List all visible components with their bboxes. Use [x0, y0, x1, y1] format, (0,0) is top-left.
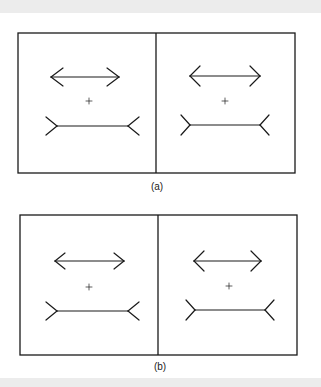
stroke	[251, 251, 261, 261]
right-half	[186, 251, 274, 320]
outward-fins-line	[186, 300, 274, 320]
stroke	[114, 253, 124, 261]
stroke	[128, 117, 139, 126]
stroke	[260, 125, 269, 135]
stroke	[181, 115, 190, 125]
stroke	[190, 76, 200, 86]
stroke	[46, 126, 57, 135]
fixation-cross-icon	[86, 98, 92, 104]
stroke	[181, 125, 190, 135]
stroke	[46, 311, 57, 320]
stroke	[55, 253, 65, 261]
panel-a-caption: (a)	[137, 181, 177, 193]
outward-fins-line	[46, 117, 139, 135]
panel-b	[20, 215, 297, 355]
panel-b-caption: (b)	[140, 361, 180, 373]
stroke	[51, 68, 63, 77]
fixation-cross-icon	[222, 98, 228, 104]
stroke	[265, 310, 274, 320]
muller-lyer-figure	[0, 0, 321, 387]
stroke	[250, 76, 260, 86]
fixation-cross-icon	[226, 283, 232, 289]
stroke	[128, 302, 139, 311]
stroke	[194, 251, 204, 261]
stroke	[128, 311, 139, 320]
inward-arrowheads-line	[55, 253, 124, 269]
stroke	[128, 126, 139, 135]
left-half	[46, 253, 139, 320]
inward-arrowheads-line	[51, 68, 119, 86]
stroke	[107, 77, 119, 86]
left-half	[46, 68, 139, 135]
stroke	[186, 300, 195, 310]
fixation-cross-icon	[86, 284, 92, 290]
panel-a	[18, 33, 295, 173]
inward-arrowheads-line	[190, 66, 260, 86]
stroke	[265, 300, 274, 310]
right-half	[181, 66, 269, 135]
stroke	[194, 261, 204, 271]
stroke	[46, 117, 57, 126]
stroke	[114, 261, 124, 269]
stroke	[190, 66, 200, 76]
inward-arrowheads-line	[194, 251, 261, 271]
stroke	[260, 115, 269, 125]
outward-fins-line	[181, 115, 269, 135]
stroke	[186, 310, 195, 320]
stroke	[251, 261, 261, 271]
stroke	[107, 68, 119, 77]
stroke	[51, 77, 63, 86]
stroke	[46, 302, 57, 311]
outward-fins-line	[46, 302, 139, 320]
stroke	[55, 261, 65, 269]
stroke	[250, 66, 260, 76]
